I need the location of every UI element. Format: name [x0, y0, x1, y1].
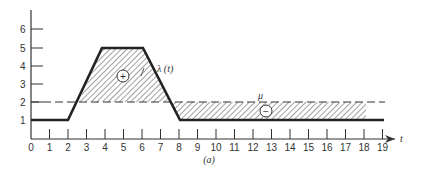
svg-text:12: 12: [247, 142, 259, 153]
chart-caption: (a): [203, 154, 215, 166]
plus-marker: +: [117, 70, 129, 82]
svg-text:16: 16: [321, 142, 333, 153]
svg-text:3: 3: [20, 79, 26, 90]
svg-text:0: 0: [28, 142, 34, 153]
svg-text:14: 14: [284, 142, 296, 153]
svg-text:2: 2: [20, 97, 26, 108]
svg-text:4: 4: [102, 142, 108, 153]
minus-marker: −: [260, 105, 272, 117]
x-tick-labels: 0 1 2 3 4 5 6 7 8 9 10 11 12 13 14 15 16…: [28, 142, 388, 153]
y-ticks: [31, 29, 43, 120]
svg-text:6: 6: [20, 24, 26, 35]
lambda-label: λ (t): [156, 63, 174, 75]
mu-label: μ: [257, 90, 263, 101]
svg-text:10: 10: [210, 142, 222, 153]
svg-text:18: 18: [358, 142, 370, 153]
svg-text:1: 1: [47, 142, 53, 153]
svg-text:9: 9: [195, 142, 201, 153]
svg-text:3: 3: [84, 142, 90, 153]
x-axis-label: t: [400, 133, 403, 144]
svg-text:5: 5: [20, 43, 26, 54]
svg-text:−: −: [263, 106, 269, 117]
svg-text:8: 8: [176, 142, 182, 153]
svg-text:7: 7: [158, 142, 164, 153]
svg-text:4: 4: [20, 61, 26, 72]
svg-text:17: 17: [340, 142, 352, 153]
svg-text:15: 15: [303, 142, 315, 153]
y-tick-labels: 1 2 3 4 5 6: [20, 24, 26, 126]
svg-text:19: 19: [377, 142, 389, 153]
svg-text:11: 11: [229, 142, 240, 153]
svg-text:+: +: [120, 71, 126, 82]
svg-text:6: 6: [139, 142, 145, 153]
svg-text:1: 1: [20, 115, 26, 126]
x-ticks: [50, 129, 383, 139]
svg-text:2: 2: [65, 142, 71, 153]
svg-text:5: 5: [121, 142, 127, 153]
svg-text:13: 13: [266, 142, 278, 153]
chart: 1 2 3 4 5 6 0 1 2 3 4 5 6 7 8: [0, 0, 423, 177]
